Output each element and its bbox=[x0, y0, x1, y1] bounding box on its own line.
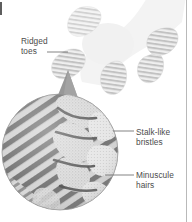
gecko-foot-illustration bbox=[52, 0, 186, 95]
label-ridged-toes-line2: toes bbox=[21, 46, 48, 56]
label-ridged-toes: Ridged toes bbox=[21, 36, 48, 57]
label-minuscule-hairs-line2: hairs bbox=[136, 180, 174, 190]
label-minuscule-hairs-line1: Minuscule bbox=[136, 170, 174, 180]
page-border-rule bbox=[186, 0, 187, 222]
label-stalk-like-bristles: Stalk-like bristles bbox=[136, 127, 170, 148]
scan-edge-artifact bbox=[0, 2, 2, 15]
toe-pad-4 bbox=[137, 54, 163, 83]
label-stalk-like-bristles-line2: bristles bbox=[136, 137, 170, 147]
label-stalk-like-bristles-line1: Stalk-like bbox=[136, 127, 170, 137]
label-minuscule-hairs: Minuscule hairs bbox=[136, 170, 174, 191]
magnified-detail-circle bbox=[0, 92, 120, 215]
label-ridged-toes-line1: Ridged bbox=[21, 36, 48, 46]
